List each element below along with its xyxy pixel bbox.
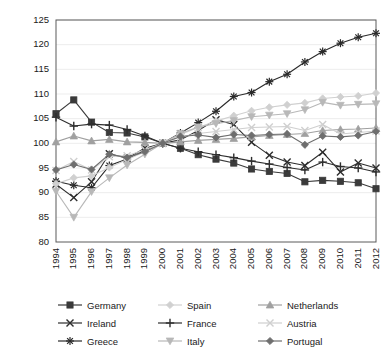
legend-item-netherlands[interactable]: Netherlands	[256, 296, 368, 314]
data-point	[248, 89, 256, 97]
data-point	[373, 186, 379, 192]
x-axis-tick-label: 2012	[370, 248, 381, 269]
legend-marker-square-icon	[56, 298, 84, 312]
chart-legend: GermanySpainNetherlandsIrelandFranceAust…	[56, 296, 378, 350]
x-axis-tick-label: 2001	[174, 248, 185, 269]
data-point	[71, 97, 77, 103]
data-point	[372, 89, 379, 96]
x-axis-tick-label: 2009	[316, 248, 327, 269]
x-axis-tick-label: 2004	[227, 248, 238, 269]
x-axis-tick-label: 2000	[156, 248, 167, 269]
data-point	[301, 99, 308, 106]
data-point	[70, 122, 78, 130]
data-point	[320, 177, 326, 183]
legend-item-greece[interactable]: Greece	[56, 332, 156, 350]
data-point	[106, 129, 112, 135]
data-point	[266, 168, 272, 174]
legend-item-italy[interactable]: Italy	[156, 332, 256, 350]
data-point	[212, 107, 220, 115]
data-point	[319, 149, 326, 156]
data-point	[106, 136, 114, 143]
legend-item-germany[interactable]: Germany	[56, 296, 156, 314]
data-point	[70, 161, 77, 168]
y-axis-tick-label: 110	[34, 88, 49, 99]
legend-marker-triangle-down-icon	[156, 334, 184, 348]
legend-label: Austria	[284, 318, 317, 329]
x-axis-tick-label: 1996	[85, 248, 96, 269]
data-point	[336, 39, 344, 47]
y-axis-tick-label: 100	[33, 137, 49, 148]
x-axis-tick-label: 1998	[121, 248, 132, 269]
legend-label: Germany	[84, 300, 126, 311]
y-axis-tick-label: 95	[38, 162, 49, 173]
data-point	[106, 175, 114, 182]
legend-item-france[interactable]: France	[156, 314, 256, 332]
x-axis-tick-label: 2010	[334, 248, 345, 269]
data-point	[372, 29, 380, 37]
data-point	[248, 166, 254, 172]
legend-marker-triangle-up-icon	[256, 298, 284, 312]
data-point	[265, 78, 273, 86]
x-axis-tick-label: 2008	[298, 248, 309, 269]
x-axis-tick-label: 1999	[138, 248, 149, 269]
data-point	[372, 168, 380, 176]
x-axis-tick-label: 2005	[245, 248, 256, 269]
data-point	[248, 107, 255, 114]
legend-label: Netherlands	[284, 300, 338, 311]
legend-label: Portugal	[284, 336, 322, 347]
data-point	[337, 133, 344, 140]
data-point	[355, 180, 361, 186]
x-axis-tick-label: 2002	[192, 248, 203, 269]
data-point	[319, 48, 327, 56]
legend-item-austria[interactable]: Austria	[256, 314, 368, 332]
data-point	[230, 92, 238, 100]
data-point	[266, 104, 273, 111]
x-axis-tick-label: 1995	[67, 248, 78, 269]
legend-item-ireland[interactable]: Ireland	[56, 314, 156, 332]
legend-label: Italy	[184, 336, 204, 347]
x-axis-tick-label: 2006	[263, 248, 274, 269]
data-point	[105, 121, 113, 129]
data-point	[318, 158, 326, 166]
data-point	[301, 141, 308, 148]
y-axis-tick-label: 85	[38, 211, 49, 222]
legend-marker-asterisk-icon	[56, 334, 84, 348]
legend-marker-diamond-icon	[156, 298, 184, 312]
data-point	[70, 174, 77, 181]
data-point	[70, 132, 78, 139]
x-axis-tick-label: 2011	[352, 248, 363, 268]
legend-item-portugal[interactable]: Portugal	[256, 332, 368, 350]
data-point	[355, 92, 362, 99]
data-point	[247, 157, 255, 165]
y-axis-tick-label: 90	[38, 186, 49, 197]
y-axis-tick-label: 80	[38, 236, 49, 247]
data-point	[301, 166, 309, 174]
legend-marker-diamond-dark-icon	[256, 334, 284, 348]
y-axis-tick-label: 125	[33, 14, 49, 25]
data-point	[354, 33, 362, 41]
x-axis-tick-label: 2003	[210, 248, 221, 269]
data-point	[283, 70, 291, 78]
y-axis-ticks: 80859095100105110115120125	[33, 14, 49, 247]
data-point	[88, 189, 96, 196]
legend-label: Ireland	[84, 318, 116, 329]
x-axis-tick-label: 1997	[103, 248, 114, 269]
line-chart: 80859095100105110115120125 1994199519961…	[0, 0, 390, 355]
x-axis-ticks: 1994199519961997199819992000200120022003…	[50, 248, 381, 269]
legend-label: France	[184, 318, 217, 329]
data-point	[266, 152, 273, 159]
data-point	[284, 101, 291, 108]
legend-marker-plus-icon	[156, 316, 184, 330]
x-axis-tick-label: 1994	[50, 248, 61, 269]
legend-label: Spain	[184, 300, 211, 311]
data-point	[302, 179, 308, 185]
legend-marker-x-light-icon	[256, 316, 284, 330]
legend-marker-x-icon	[56, 316, 84, 330]
data-point	[70, 194, 77, 201]
legend-item-spain[interactable]: Spain	[156, 296, 256, 314]
data-point	[52, 188, 60, 195]
legend-label: Greece	[84, 336, 118, 347]
data-point	[337, 178, 343, 184]
data-point	[301, 58, 309, 66]
data-point	[70, 181, 78, 189]
